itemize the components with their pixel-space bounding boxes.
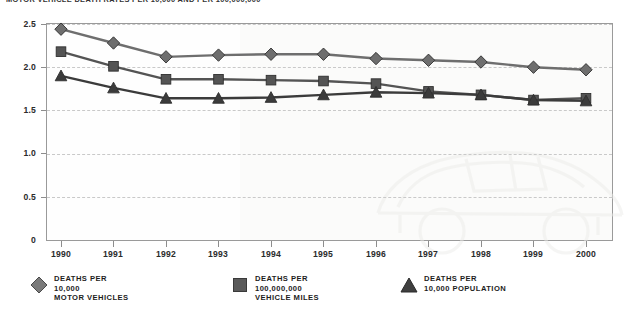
diamond-marker-icon [30, 276, 48, 294]
x-tick-1997 [428, 241, 429, 247]
x-tick-1995 [323, 241, 324, 247]
legend-label-line1: DEATHS PER [424, 274, 506, 284]
legend-label-line1: DEATHS PER [255, 274, 319, 284]
x-tick-1999 [533, 241, 534, 247]
y-tick-2-5 [41, 24, 46, 25]
plot-area [47, 24, 612, 240]
gridline-2 [47, 110, 612, 111]
y-tick-2-0 [41, 67, 46, 68]
y-label-2-5: 2.5 [2, 19, 36, 29]
chart-page: MOTOR VEHICLE DEATH RATES PER 10,000 AND… [0, 0, 627, 313]
triangle-marker-icon [400, 276, 418, 294]
gridline-4 [47, 197, 612, 198]
y-label-1-0: 1.0 [2, 148, 36, 158]
legend-label-line3: VEHICLE MILES [255, 293, 319, 303]
x-tick-1992 [166, 241, 167, 247]
legend-label-line1: DEATHS PER [54, 274, 129, 284]
y-tick-1-0 [41, 153, 46, 154]
legend-label-line3: MOTOR VEHICLES [54, 293, 129, 303]
legend-label-line2: 10,000 POPULATION [424, 284, 506, 294]
x-label-1993: 1993 [196, 249, 240, 259]
x-label-1992: 1992 [144, 249, 188, 259]
x-label-1998: 1998 [459, 249, 503, 259]
x-label-2000: 2000 [564, 249, 608, 259]
y-label-1-5: 1.5 [2, 105, 36, 115]
y-label-0: 0 [2, 235, 36, 245]
x-tick-1996 [376, 241, 377, 247]
gridline-3 [47, 154, 612, 155]
y-label-2-0: 2.0 [2, 62, 36, 72]
legend-label-line2: 100,000,000 [255, 284, 319, 294]
gridline-0 [47, 24, 612, 25]
x-label-1999: 1999 [511, 249, 555, 259]
x-label-1997: 1997 [406, 249, 450, 259]
y-tick-1-5 [41, 110, 46, 111]
chart-title: MOTOR VEHICLE DEATH RATES PER 10,000 AND… [6, 0, 261, 4]
x-label-1994: 1994 [249, 249, 293, 259]
square-marker-icon [231, 276, 249, 294]
x-tick-1998 [481, 241, 482, 247]
x-label-1996: 1996 [354, 249, 398, 259]
chart-legend: DEATHS PER 10,000 MOTOR VEHICLES DEATHS … [30, 274, 610, 312]
legend-label-line2: 10,000 [54, 284, 129, 294]
gridline-1 [47, 67, 612, 68]
x-tick-1990 [61, 241, 62, 247]
x-label-1995: 1995 [301, 249, 345, 259]
x-label-1990: 1990 [39, 249, 83, 259]
x-tick-2000 [586, 241, 587, 247]
x-tick-1994 [271, 241, 272, 247]
x-tick-1993 [218, 241, 219, 247]
x-label-1991: 1991 [91, 249, 135, 259]
y-label-0-5: 0.5 [2, 192, 36, 202]
y-tick-0-5 [41, 197, 46, 198]
x-tick-1991 [113, 241, 114, 247]
